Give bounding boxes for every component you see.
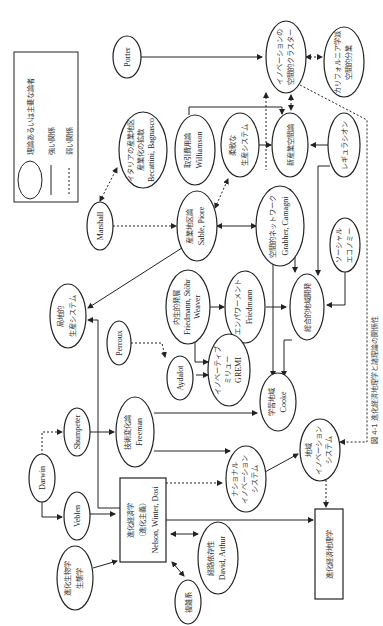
node-regional-innovation-system: 地域 イノベーション システム — [300, 419, 340, 481]
figure-caption: 図 4-1 進化経済地理学と諸理論の関係性 — [370, 316, 379, 444]
svg-text:David, Arthur: David, Arthur — [218, 535, 227, 580]
svg-text:イノベーションの: イノベーションの — [275, 29, 284, 85]
svg-text:空間的クラスター: 空間的クラスター — [286, 29, 295, 85]
node-porter: Porter — [113, 36, 141, 78]
node-darwin: Darwin — [29, 454, 55, 502]
node-national-innovation-system: ナショナル イノベーション システム — [226, 446, 266, 512]
svg-text:（進化主義）: （進化主義） — [138, 499, 147, 541]
svg-text:複雑系: 複雑系 — [184, 592, 193, 613]
svg-text:イタリアの産業地区: イタリアの産業地区 — [126, 119, 135, 182]
svg-text:進化経済地理学: 進化経済地理学 — [325, 530, 334, 579]
node-social-economy: ソーシャル エコノミー — [330, 218, 360, 272]
svg-text:学習地域: 学習地域 — [267, 388, 276, 416]
svg-text:総合的地域開発: 総合的地域開発 — [303, 283, 312, 332]
node-shumpeter: Shumpeter — [64, 408, 90, 456]
svg-text:Weaver: Weaver — [193, 295, 202, 320]
svg-text:進化経済学: 進化経済学 — [126, 503, 135, 538]
svg-text:イノベーティブ: イノベーティブ — [213, 346, 222, 395]
svg-text:Perroux: Perroux — [115, 330, 124, 355]
legend: 理論あるいは主要な論者 強い関係 弱い関係 — [14, 52, 78, 202]
svg-text:Freeman: Freeman — [135, 418, 144, 446]
svg-text:システム: システム — [250, 465, 259, 493]
svg-text:ナショナル: ナショナル — [230, 462, 239, 497]
svg-text:Aydalot: Aydalot — [176, 365, 185, 391]
svg-text:エコノミー: エコノミー — [345, 228, 354, 263]
svg-text:システム: システム — [324, 436, 333, 464]
node-complex-systems: 複雑系 — [175, 580, 201, 624]
node-innovation-cluster: イノベーションの 空間的クラスター — [266, 21, 306, 93]
svg-text:GREMI: GREMI — [234, 357, 243, 383]
svg-text:カリフォルニア学派: カリフォルニア学派 — [333, 31, 342, 94]
diagram-canvas: 理論あるいは主要な論者 強い関係 弱い関係 Porter イノベーションの 空間… — [0, 0, 383, 626]
node-perroux: Perroux — [107, 321, 131, 365]
svg-text:産業地区論: 産業地区論 — [185, 209, 194, 244]
node-path-dependence: 経路依存性 David, Arthur — [198, 522, 238, 594]
svg-text:ミリュー: ミリュー — [223, 356, 232, 384]
node-spatial-network: 空間的ネットワーク Grabher, Camagni — [256, 186, 304, 266]
svg-text:Shumpeter: Shumpeter — [73, 414, 82, 449]
node-local-production: 局地的 生産システム — [50, 284, 86, 348]
node-transaction-cost: 取引費用論 Williamson — [175, 115, 215, 185]
node-learning-region: 学習地域 Cooke — [260, 373, 296, 431]
svg-text:進化生物学: 進化生物学 — [63, 561, 72, 596]
svg-text:地域: 地域 — [304, 443, 313, 457]
svg-text:イノベーション: イノベーション — [240, 455, 249, 504]
svg-text:生態学: 生態学 — [75, 568, 84, 589]
node-regulation: レギュラシオン — [328, 113, 360, 177]
svg-text:Porter: Porter — [123, 47, 132, 67]
svg-text:空間的分業: 空間的分業 — [344, 45, 353, 80]
node-california: カリフォルニア学派 空間的分業 — [324, 27, 364, 97]
svg-text:Cooke: Cooke — [279, 391, 288, 412]
legend-strong-label: 強い関係 — [47, 127, 56, 155]
svg-text:局地的: 局地的 — [56, 306, 65, 327]
svg-text:技術変化論: 技術変化論 — [123, 415, 132, 450]
node-flexible-production: 柔軟な 生産システム — [221, 113, 259, 177]
svg-text:イノベーション: イノベーション — [314, 426, 323, 475]
node-technical-change: 技術変化論 Freeman — [116, 397, 154, 467]
svg-text:空間的ネットワーク: 空間的ネットワーク — [268, 195, 277, 258]
node-aydalot: Aydalot — [167, 356, 193, 400]
svg-text:レギュラシオン: レギュラシオン — [340, 121, 349, 170]
svg-text:Darwin: Darwin — [38, 466, 47, 490]
node-evolutionary-economics: 進化経済学 （進化主義） Nelson, Winter, Dosi — [120, 478, 166, 562]
svg-text:Nelson, Winter, Dosi: Nelson, Winter, Dosi — [151, 486, 160, 554]
svg-text:Williamson: Williamson — [195, 131, 204, 168]
svg-text:Veblen: Veblen — [73, 505, 82, 527]
svg-text:新産業空間論: 新産業空間論 — [286, 124, 295, 166]
node-industrial-district: 産業地区論 Sable, Piore — [177, 191, 217, 261]
node-endogenous-development: 内生的発展 Friedmann, Stöhr Weaver — [166, 270, 210, 344]
node-marshall: Marshall — [87, 202, 113, 250]
node-evolutionary-biology: 進化生物学 生態学 — [57, 546, 93, 610]
svg-text:Becattini, Bagnasco: Becattini, Bagnasco — [147, 118, 156, 182]
node-italy: イタリアの産業地区 産業化の拡散 Becattini, Bagnasco — [119, 112, 167, 188]
svg-text:取引費用論: 取引費用論 — [183, 133, 192, 168]
node-new-industrial-space: 新産業空間論 — [272, 113, 308, 177]
svg-text:Sable, Piore: Sable, Piore — [197, 206, 206, 245]
node-evolutionary-economic-geography: 進化経済地理学 — [315, 509, 343, 599]
svg-text:産業化の拡散: 産業化の拡散 — [136, 129, 145, 171]
svg-text:Grabher, Camagni: Grabher, Camagni — [281, 196, 290, 256]
svg-text:生産システム: 生産システム — [68, 295, 77, 337]
node-integrated-regional-development: 総合的地域開発 — [290, 274, 324, 340]
svg-text:経路依存性: 経路依存性 — [206, 541, 215, 576]
svg-text:Friedmann: Friedmann — [245, 290, 254, 325]
svg-text:ソーシャル: ソーシャル — [334, 228, 343, 263]
svg-text:柔軟な: 柔軟な — [228, 135, 237, 156]
legend-weak-label: 弱い関係 — [65, 127, 74, 155]
node-veblen: Veblen — [64, 492, 90, 540]
svg-text:生産システム: 生産システム — [240, 124, 249, 166]
svg-text:内生的発展: 内生的発展 — [172, 290, 181, 325]
node-empowerment: エンパワーメント Friedmann — [225, 271, 265, 343]
svg-text:Friedmann, Stöhr: Friedmann, Stöhr — [183, 279, 192, 335]
legend-theory-label: 理論あるいは主要な論者 — [26, 78, 35, 155]
svg-text:Marshall: Marshall — [96, 211, 105, 240]
node-innovative-milieu: イノベーティブ ミリュー GREMI — [208, 334, 250, 406]
svg-text:エンパワーメント: エンパワーメント — [233, 279, 242, 335]
